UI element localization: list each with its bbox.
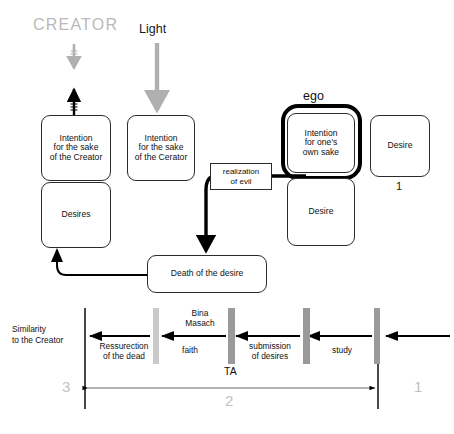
- desire-right-number: 1: [396, 180, 402, 192]
- timeline-label-ta: TA: [224, 365, 237, 377]
- timeline-label-bina-masach: Bina Masach: [172, 308, 228, 328]
- box-desire-right-label: Desire: [386, 141, 415, 151]
- box-realization-of-evil-label: realization of evil: [223, 167, 259, 185]
- box-desires-label: Desires: [59, 210, 92, 220]
- timeline-label-resurrection: Ressurection of the dead: [90, 341, 158, 361]
- death-to-desires-loop: [57, 250, 150, 275]
- box-intention-own-sake[interactable]: Intention for one's own sake: [287, 113, 355, 173]
- box-desire-ego[interactable]: Desire: [287, 178, 355, 246]
- diagram-canvas: CREATOR Light ego Intention for the sake…: [0, 0, 454, 434]
- ascent-up-arrow: [71, 89, 78, 115]
- ego-title: ego: [303, 89, 324, 103]
- box-desires[interactable]: Desires: [41, 182, 111, 248]
- timeline-bar-submission: [303, 308, 310, 364]
- box-intention-for-creator-middle-label: Intention for the sake of the Cerator: [133, 134, 190, 163]
- box-realization-of-evil[interactable]: realization of evil: [210, 163, 272, 190]
- creator-down-arrow: [71, 44, 78, 68]
- box-intention-for-creator-left-label: Intention for the sake of the Creator: [48, 134, 105, 163]
- creator-title: CREATOR: [33, 16, 118, 34]
- timeline-axis-left-label: Similarity to the Creator: [12, 324, 63, 345]
- timeline-label-submission: submission of desires: [238, 341, 302, 361]
- box-intention-own-sake-label: Intention for one's own sake: [301, 129, 341, 158]
- box-desire-right[interactable]: Desire: [370, 115, 430, 177]
- timeline-marker-3: 3: [62, 378, 70, 395]
- box-death-of-desire-label: Death of the desire: [169, 269, 246, 279]
- light-title: Light: [139, 22, 166, 36]
- timeline-label-study: study: [318, 345, 366, 355]
- box-intention-for-creator-left[interactable]: Intention for the sake of the Creator: [41, 115, 111, 181]
- box-intention-for-creator-middle[interactable]: Intention for the sake of the Cerator: [127, 115, 195, 181]
- timeline-marker-1: 1: [414, 378, 422, 395]
- timeline-marker-2: 2: [225, 392, 233, 409]
- box-death-of-desire[interactable]: Death of the desire: [147, 255, 267, 293]
- timeline-bar-study: [374, 308, 380, 364]
- timeline-label-faith: faith: [168, 345, 212, 355]
- timeline-bar-ta: [228, 308, 235, 364]
- box-desire-ego-label: Desire: [307, 207, 336, 217]
